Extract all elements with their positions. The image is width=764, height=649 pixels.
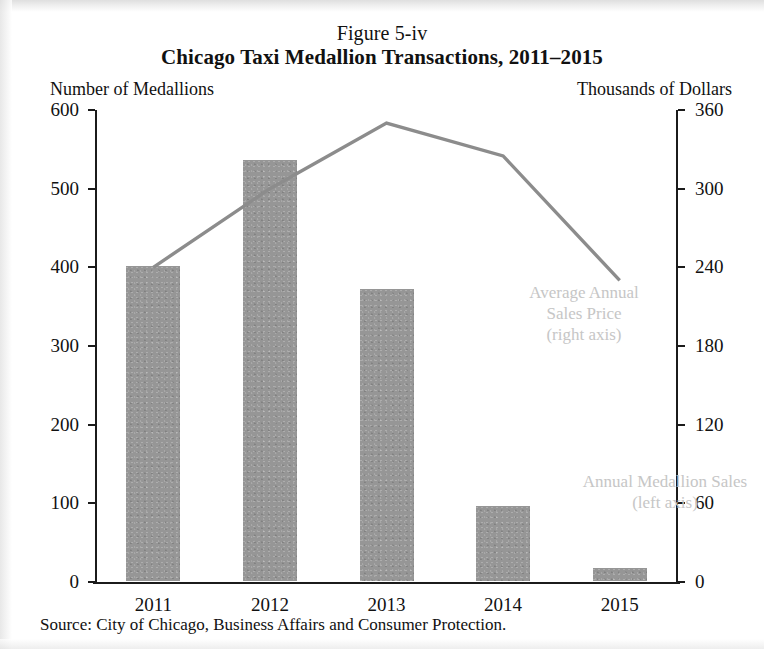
y-tick-right	[678, 188, 685, 190]
y-tick-left	[88, 109, 95, 111]
y-tick-right	[678, 424, 685, 426]
y-tick-right	[678, 581, 685, 583]
page-title: Chicago Taxi Medallion Transactions, 201…	[0, 45, 764, 70]
y-tick-label-left: 500	[13, 179, 79, 198]
source-note: Source: City of Chicago, Business Affair…	[40, 615, 506, 635]
y-tick-label-right: 120	[695, 415, 764, 434]
x-tick-label: 2013	[342, 594, 432, 616]
annotation-line-row-3: (right axis)	[481, 324, 687, 345]
y-tick-left	[88, 188, 95, 190]
annotation-annual-medallion-sales: Annual Medallion Sales (left axis)	[547, 471, 764, 513]
plot-area: 0100200300400500600 060120180240300360 2…	[95, 110, 678, 583]
y-tick-label-right: 240	[695, 257, 764, 276]
y-tick-label-left: 300	[13, 336, 79, 355]
y-tick-label-left: 600	[13, 100, 79, 119]
y-tick-label-right: 300	[695, 179, 764, 198]
y-tick-label-right: 360	[695, 100, 764, 119]
y-tick-left	[88, 502, 95, 504]
right-axis-caption: Thousands of Dollars	[577, 79, 732, 100]
y-tick-label-left: 400	[13, 257, 79, 276]
figure-number: Figure 5-iv	[0, 21, 764, 45]
annotation-bars-row-1: Annual Medallion Sales	[547, 471, 764, 492]
x-tick-label: 2012	[225, 594, 315, 616]
y-tick-label-left: 100	[13, 493, 79, 512]
y-tick-right	[678, 345, 685, 347]
y-tick-label-right: 0	[695, 572, 764, 591]
x-tick-label: 2011	[108, 594, 198, 616]
left-axis-caption: Number of Medallions	[50, 79, 214, 100]
annotation-line-row-1: Average Annual	[481, 282, 687, 303]
y-tick-label-left: 0	[13, 572, 79, 591]
x-tick-label: 2015	[575, 594, 665, 616]
y-tick-left	[88, 581, 95, 583]
y-tick-label-right: 180	[695, 336, 764, 355]
y-tick-label-left: 200	[13, 415, 79, 434]
y-tick-left	[88, 266, 95, 268]
annotation-average-annual-sales-price: Average Annual Sales Price (right axis)	[481, 282, 687, 345]
figure-container: Figure 5-iv Chicago Taxi Medallion Trans…	[0, 0, 764, 649]
annotation-bars-row-2: (left axis)	[547, 492, 764, 513]
y-tick-left	[88, 424, 95, 426]
y-tick-right	[678, 266, 685, 268]
y-tick-left	[88, 345, 95, 347]
y-tick-right	[678, 109, 685, 111]
annotation-line-row-2: Sales Price	[481, 303, 687, 324]
x-tick-label: 2014	[458, 594, 548, 616]
